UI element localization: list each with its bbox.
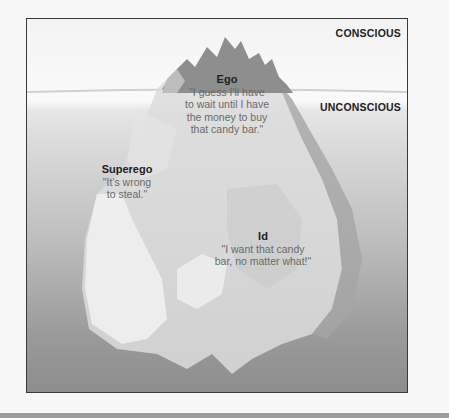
id-quote-line: bar, no matter what!": [203, 255, 323, 268]
id-title: Id: [203, 230, 323, 243]
ego-label: Ego "I guess I'll have to wait until I h…: [171, 73, 283, 136]
superego-quote-line: "It's wrong: [87, 176, 167, 189]
iceberg-diagram-frame: CONSCIOUS UNCONSCIOUS Ego "I guess I'll …: [26, 18, 408, 393]
conscious-label: CONSCIOUS: [336, 27, 401, 39]
bottom-divider-bar: [0, 413, 449, 418]
unconscious-label: UNCONSCIOUS: [320, 101, 401, 113]
id-quote-line: "I want that candy: [203, 243, 323, 256]
superego-label: Superego "It's wrong to steal.": [87, 163, 167, 201]
superego-title: Superego: [87, 163, 167, 176]
superego-quote-line: to steal.": [87, 188, 167, 201]
ego-quote-line: to wait until I have: [171, 98, 283, 111]
ego-quote-line: the money to buy: [171, 111, 283, 124]
ego-quote-line: that candy bar.": [171, 123, 283, 136]
ego-title: Ego: [171, 73, 283, 86]
id-label: Id "I want that candy bar, no matter wha…: [203, 230, 323, 268]
ego-quote-line: "I guess I'll have: [171, 86, 283, 99]
